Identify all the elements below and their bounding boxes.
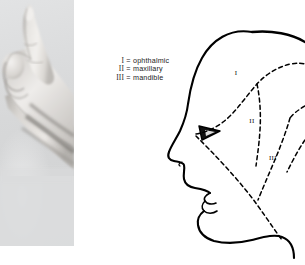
division-boundary-branch-temple [256,84,260,166]
head-profile-diagram: I II III [160,0,305,265]
zone-label-III: III [269,154,277,162]
head-profile-svg: I II III [160,0,305,265]
legend-numeral: III [110,74,124,82]
legend-equals: = [124,74,133,82]
pointing-hand-photograph [0,0,74,246]
legend-term: mandible [133,74,163,82]
hand-illustration [0,0,74,246]
forehead-nose-outline [168,31,252,193]
division-boundary-II-III [196,136,282,240]
division-boundary-ear-edge [290,106,305,118]
zone-label-II: II [249,117,255,125]
chin-jaw-neck-outline [198,211,294,258]
zone-label-I: I [235,69,238,77]
division-boundary-lower-edge [287,140,305,172]
skull-crown-outline [252,31,305,42]
anatomical-figure: I = ophthalmic II = maxillary III = mand… [0,0,305,265]
upper-lip-outline [204,193,216,204]
